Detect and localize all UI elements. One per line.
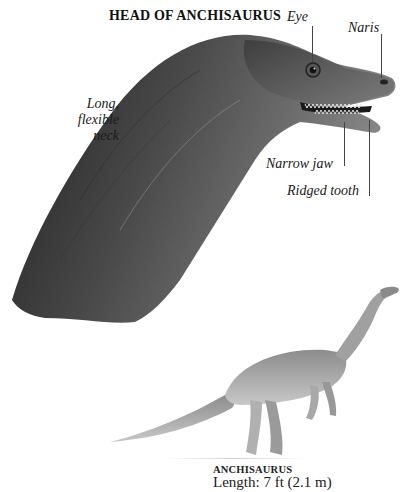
anchisaurus-illustration <box>0 0 407 492</box>
figure-title: HEAD OF ANCHISAURUS <box>109 8 281 24</box>
label-neck-line1: Long, <box>64 96 119 112</box>
leader-line-naris <box>381 34 382 78</box>
label-neck-line2: flexible <box>44 112 119 128</box>
caption-length: Length: 7 ft (2.1 m) <box>213 474 332 491</box>
leader-line-eye <box>312 26 313 62</box>
label-naris: Naris <box>348 20 379 36</box>
ground-shadow <box>165 458 305 459</box>
full-body-illustration <box>110 287 399 455</box>
leader-line-tooth <box>369 120 370 196</box>
leader-line-jaw <box>344 122 345 166</box>
label-ridged-tooth: Ridged tooth <box>287 183 359 199</box>
label-neck-line3: neck <box>64 128 119 144</box>
label-eye: Eye <box>287 9 308 25</box>
label-narrow-jaw: Narrow jaw <box>266 156 333 172</box>
head-and-neck-illustration <box>12 35 395 323</box>
